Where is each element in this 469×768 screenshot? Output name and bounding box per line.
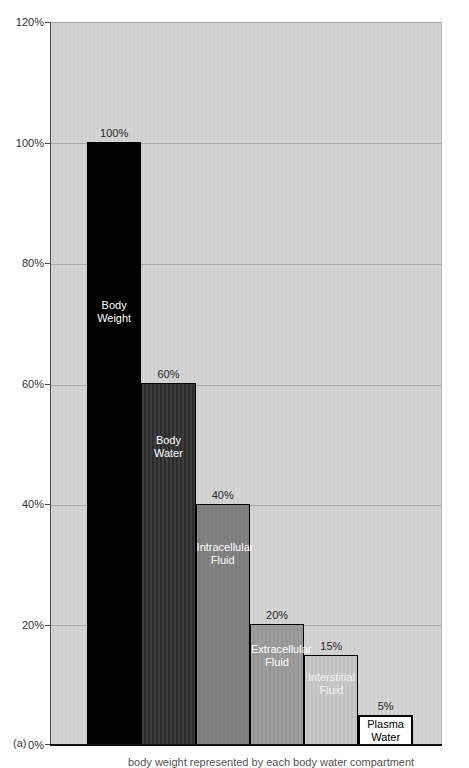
bar-value-label: 100%: [100, 127, 128, 139]
bar-rect-extracellular-fluid: Extracellular Fluid: [250, 624, 304, 745]
bar-value-label: 20%: [266, 609, 288, 621]
bars-container: 100% Body Weight 60% Body Water 40% Intr…: [50, 22, 442, 745]
bar-body-weight: 100% Body Weight: [87, 127, 141, 745]
x-axis-line: [50, 744, 442, 746]
figure-caption: body weight represented by each body wat…: [128, 756, 458, 768]
y-axis-label-20: 20%: [0, 619, 44, 631]
bar-rect-intracellular-fluid: Intracellular Fluid: [196, 504, 250, 745]
y-axis-label-80: 80%: [0, 257, 44, 269]
y-axis-label-100: 100%: [0, 137, 44, 149]
bar-rect-body-water: Body Water: [141, 383, 195, 745]
bar-extracellular-fluid: 20% Extracellular Fluid: [250, 609, 304, 745]
bar-label-intracellular-fluid: Intracellular Fluid: [197, 505, 249, 567]
bar-interstitial-fluid: 15% Interstitial Fluid: [304, 640, 358, 745]
bar-rect-interstitial-fluid: Interstitial Fluid: [304, 655, 358, 745]
bar-plasma-water: 5% Plasma Water: [358, 700, 412, 745]
bar-label-interstitial-fluid: Interstitial Fluid: [305, 656, 357, 697]
y-axis-label-40: 40%: [0, 498, 44, 510]
bar-intracellular-fluid: 40% Intracellular Fluid: [196, 489, 250, 745]
bar-rect-body-weight: Body Weight: [87, 142, 141, 745]
y-axis-label-120: 120%: [0, 16, 44, 28]
bar-value-label: 15%: [320, 640, 342, 652]
bar-label-extracellular-fluid: Extracellular Fluid: [251, 625, 303, 669]
bar-label-body-water: Body Water: [142, 384, 194, 460]
bar-value-label: 60%: [157, 368, 179, 380]
bar-label-body-weight: Body Weight: [88, 143, 140, 325]
bar-value-label: 40%: [212, 489, 234, 501]
y-axis-label-60: 60%: [0, 378, 44, 390]
bar-rect-plasma-water: Plasma Water: [358, 715, 412, 745]
bar-label-plasma-water: Plasma Water: [360, 717, 410, 744]
bar-body-water: 60% Body Water: [141, 368, 195, 745]
bar-value-label: 5%: [378, 700, 394, 712]
figure-label: (a): [13, 737, 26, 749]
